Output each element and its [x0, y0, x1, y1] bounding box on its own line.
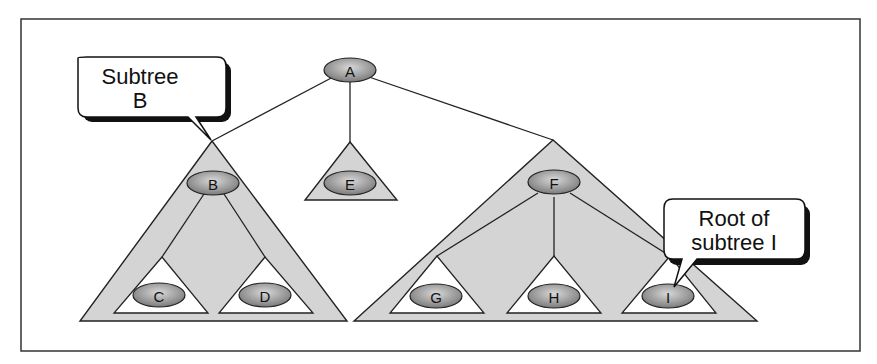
node-g-label: G — [430, 289, 442, 306]
node-h: H — [528, 284, 580, 308]
node-d-label: D — [260, 288, 271, 305]
node-g: G — [410, 284, 462, 308]
node-d: D — [239, 283, 291, 307]
tree-diagram: A B C D E F G H I Subtree B — [0, 0, 877, 364]
node-e-label: E — [345, 176, 355, 193]
node-f: F — [528, 170, 580, 194]
callout-subtree-b: Subtree B — [78, 57, 231, 140]
node-b-label: B — [208, 176, 218, 193]
node-i-label: I — [666, 289, 670, 306]
node-c-label: C — [154, 288, 165, 305]
node-b: B — [187, 171, 239, 195]
node-e: E — [324, 171, 376, 195]
callout-root-line1: Root of — [699, 206, 771, 231]
node-h-label: H — [549, 289, 560, 306]
node-a-label: A — [345, 63, 355, 80]
node-i: I — [642, 284, 694, 308]
callout-subtree-b-line2: B — [133, 88, 148, 113]
edges-from-root — [212, 76, 553, 142]
callout-subtree-b-line1: Subtree — [101, 64, 178, 89]
node-f-label: F — [549, 175, 558, 192]
subtree-b — [80, 141, 347, 321]
callout-root-line2: subtree I — [691, 230, 777, 255]
node-c: C — [133, 283, 185, 307]
node-a: A — [324, 58, 376, 82]
